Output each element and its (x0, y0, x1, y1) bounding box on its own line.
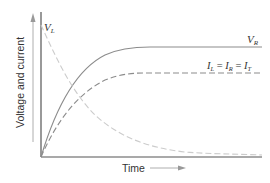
rl-circuit-chart: Voltage and current VL VR IL = IR = IT T… (0, 0, 270, 183)
current-label: IL = IR = IT (206, 60, 251, 72)
x-axis-label: Time (122, 162, 145, 174)
x-axis-arrow-head-icon (178, 166, 186, 171)
vr-label-sub: R (253, 39, 259, 47)
vr-label: VR (247, 33, 259, 47)
eq-sign-1: = (214, 60, 225, 71)
y-axis-label: Voltage and current (14, 37, 26, 128)
y-axis-label-group: Voltage and current (14, 13, 36, 142)
vl-label-sub: L (50, 27, 55, 35)
vl-curve (41, 25, 262, 155)
x-axis-label-group: Time (122, 162, 186, 174)
vr-curve (41, 47, 262, 157)
vl-label: VL (44, 21, 55, 35)
eq-sign-2: = (233, 60, 244, 71)
it-sub: T (247, 65, 251, 72)
current-curve (41, 73, 262, 157)
y-axis-arrow-head-icon (31, 13, 36, 22)
